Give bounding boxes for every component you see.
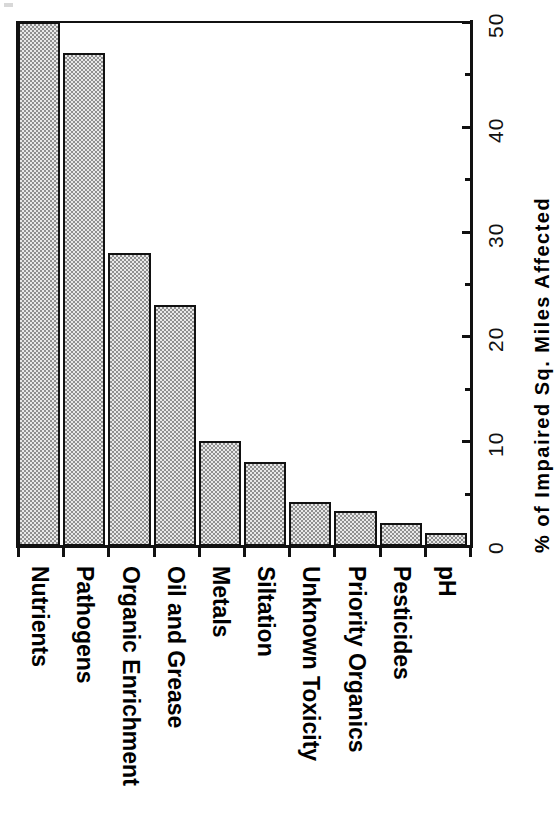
category-label: Nutrients [26, 566, 53, 667]
category-label: Siltation [252, 566, 279, 657]
bar [108, 253, 150, 546]
value-axis-minor-tick [465, 178, 473, 181]
plot-frame-top [16, 21, 472, 23]
value-axis-minor-tick [465, 73, 473, 76]
value-axis-tick-label: 50 [484, 13, 508, 38]
value-axis-major-tick [462, 21, 473, 24]
value-axis-minor-tick [465, 388, 473, 391]
value-axis-major-tick [462, 335, 473, 338]
value-axis-tick-label: 40 [484, 117, 508, 142]
value-axis-tick-label: 30 [484, 222, 508, 247]
category-axis-tick [62, 546, 65, 557]
category-label: Pesticides [388, 566, 415, 680]
category-axis-tick [243, 546, 246, 557]
category-label: Unknown Toxicity [297, 566, 324, 761]
category-label: Metals [207, 566, 234, 638]
value-axis-minor-tick [465, 493, 473, 496]
category-label: pH [433, 566, 460, 597]
bar [244, 462, 286, 546]
category-axis-tick [424, 546, 427, 557]
category-axis-tick [17, 546, 20, 557]
category-axis-tick [153, 546, 156, 557]
value-axis-tick-label: 0 [484, 541, 508, 554]
category-label: Pathogens [71, 566, 98, 684]
bar [425, 533, 467, 546]
category-axis-tick [107, 546, 110, 557]
category-label: Priority Organics [343, 566, 370, 753]
value-axis-tick-label: 20 [484, 327, 508, 352]
bar [334, 511, 376, 546]
bar [289, 502, 331, 546]
value-axis-title: % of Impaired Sq. Miles Affected [531, 197, 554, 553]
bar [18, 22, 60, 546]
category-axis-tick [198, 546, 201, 557]
bar [199, 441, 241, 546]
category-axis-tick [333, 546, 336, 557]
category-axis-tick [379, 546, 382, 557]
bar [154, 305, 196, 546]
category-axis-tick [288, 546, 291, 557]
value-axis-minor-tick [465, 283, 473, 286]
category-axis-tick [469, 546, 472, 557]
bar [380, 523, 422, 546]
bar [63, 53, 105, 546]
category-label: Oil and Grease [162, 566, 189, 728]
scan-artifact [4, 3, 13, 7]
value-axis-tick-label: 10 [484, 432, 508, 457]
value-axis-major-tick [462, 440, 473, 443]
value-axis-major-tick [462, 231, 473, 234]
category-label: Organic Enrichment [117, 566, 144, 786]
value-axis-major-tick [462, 126, 473, 129]
